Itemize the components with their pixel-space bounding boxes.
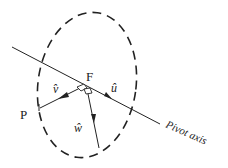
label-u: û bbox=[111, 81, 117, 95]
rotation-circle bbox=[28, 6, 145, 164]
label-F: F bbox=[86, 69, 93, 84]
label-w: ŵ bbox=[74, 121, 82, 135]
label-P: P bbox=[20, 107, 27, 122]
right-angle-marker-icon-2 bbox=[84, 88, 92, 94]
label-pivot-axis: Pivot axis bbox=[163, 117, 209, 146]
v-arrowhead-icon bbox=[58, 92, 69, 99]
label-v: v̂ bbox=[53, 82, 59, 96]
pivot-diagram: F P û v̂ ŵ Pivot axis bbox=[0, 0, 228, 168]
pivot-axis-line bbox=[12, 47, 160, 124]
